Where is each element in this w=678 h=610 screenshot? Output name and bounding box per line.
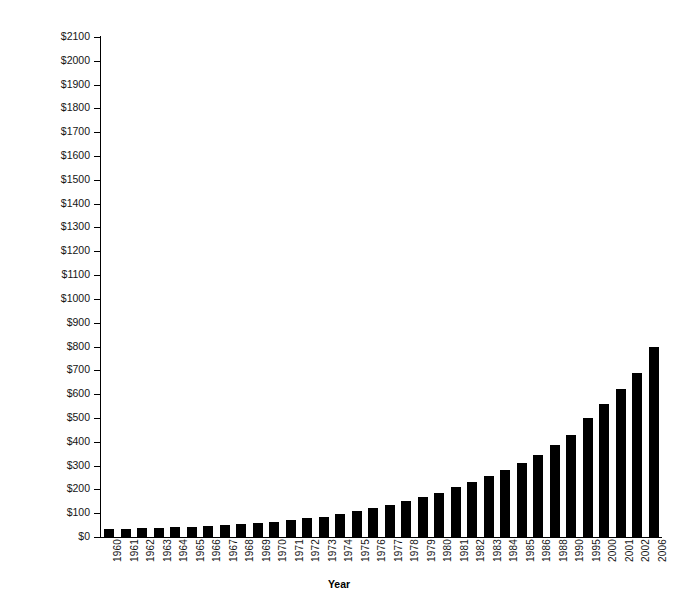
y-axis-tick-label: $700 [0, 364, 90, 375]
y-axis-tick [94, 227, 101, 228]
bar [484, 476, 494, 537]
bar [170, 527, 180, 537]
bar [302, 518, 312, 537]
bar [533, 455, 543, 537]
y-axis-tick [94, 513, 101, 514]
bar [236, 524, 246, 537]
bar [649, 347, 659, 537]
x-axis-tick-label: 1986 [542, 539, 552, 562]
bar [517, 463, 527, 537]
bar [583, 418, 593, 537]
x-axis-tick-label: 1972 [311, 539, 321, 562]
x-axis-tick-label: 1963 [163, 539, 173, 562]
x-axis-tick-label: 1979 [427, 539, 437, 562]
x-axis-tick-label: 2006 [658, 539, 668, 562]
bar [121, 529, 131, 537]
y-axis-tick-label: $1500 [0, 174, 90, 185]
y-axis-tick-label: $0 [0, 531, 90, 542]
y-axis-tick-label: $800 [0, 341, 90, 352]
x-axis-tick-label: 1981 [460, 539, 470, 562]
y-axis-tick-label: $100 [0, 507, 90, 518]
bar [434, 493, 444, 537]
y-axis-tick-label: $500 [0, 412, 90, 423]
bar [352, 511, 362, 537]
x-axis-tick-label: 1990 [575, 539, 585, 562]
y-axis-tick-label: $900 [0, 317, 90, 328]
bar [467, 482, 477, 537]
x-axis-tick-label: 2000 [608, 539, 618, 562]
bar [286, 520, 296, 537]
y-axis-tick [94, 132, 101, 133]
bar [599, 404, 609, 537]
y-axis-tick [94, 537, 101, 538]
bar [418, 497, 428, 537]
y-axis-tick-label: $1300 [0, 221, 90, 232]
bar [368, 508, 378, 537]
x-axis-labels: 1960196119621963196419651966196719681969… [101, 539, 662, 579]
bar [500, 470, 510, 537]
y-axis-tick [94, 275, 101, 276]
bar [385, 505, 395, 537]
x-axis-tick-label: 1967 [229, 539, 239, 562]
bar [550, 445, 560, 537]
x-axis-tick-label: 1985 [526, 539, 536, 562]
bar [616, 389, 626, 537]
y-axis-tick [94, 299, 101, 300]
y-axis-tick [94, 394, 101, 395]
bar [319, 517, 329, 537]
y-axis-tick-label: $1200 [0, 245, 90, 256]
y-axis-tick-label: $1600 [0, 150, 90, 161]
bar [632, 373, 642, 537]
y-axis-tick [94, 323, 101, 324]
y-axis-tick [94, 418, 101, 419]
y-axis-tick-label: $2000 [0, 55, 90, 66]
bar [187, 527, 197, 537]
y-axis-tick [94, 85, 101, 86]
x-axis-tick-label: 1973 [328, 539, 338, 562]
x-axis-tick-label: 1983 [493, 539, 503, 562]
bar [220, 525, 230, 537]
bar-chart: $2100$2000$1900$1800$1700$1600$1500$1400… [0, 0, 678, 610]
y-axis-tick-label: $200 [0, 483, 90, 494]
x-axis-tick-label: 2001 [625, 539, 635, 562]
y-axis-tick [94, 108, 101, 109]
y-axis-tick [94, 466, 101, 467]
y-axis-tick-label: $1400 [0, 198, 90, 209]
y-axis-tick [94, 489, 101, 490]
y-axis-tick [94, 61, 101, 62]
x-axis-tick-label: 1975 [361, 539, 371, 562]
bar [203, 526, 213, 537]
x-axis-tick-label: 1974 [344, 539, 354, 562]
y-axis-tick [94, 204, 101, 205]
x-axis-tick-label: 1995 [592, 539, 602, 562]
x-axis-tick-label: 1977 [394, 539, 404, 562]
x-axis-tick-label: 1984 [509, 539, 519, 562]
x-axis-tick-label: 1978 [410, 539, 420, 562]
bar-series [101, 0, 662, 537]
x-axis-tick-label: 1988 [559, 539, 569, 562]
x-axis-line [100, 537, 662, 538]
y-axis-tick [94, 180, 101, 181]
y-axis-tick-label: $1100 [0, 269, 90, 280]
y-axis-tick-label: $2100 [0, 31, 90, 42]
bar [104, 529, 114, 537]
bar [566, 435, 576, 537]
x-axis-tick-label: 1969 [262, 539, 272, 562]
y-axis-tick [94, 251, 101, 252]
bar [401, 501, 411, 537]
bar [137, 528, 147, 537]
x-axis-tick-label: 1964 [179, 539, 189, 562]
bar [253, 523, 263, 537]
x-axis-tick-label: 1976 [377, 539, 387, 562]
bar [335, 514, 345, 537]
bar [451, 487, 461, 537]
y-axis-tick [94, 370, 101, 371]
x-axis-tick-label: 1971 [295, 539, 305, 562]
x-axis-tick-label: 1961 [130, 539, 140, 562]
y-axis-tick-label: $1900 [0, 79, 90, 90]
y-axis-tick-label: $400 [0, 436, 90, 447]
bar [269, 522, 279, 537]
y-axis-tick-label: $300 [0, 460, 90, 471]
y-axis-tick-label: $1000 [0, 293, 90, 304]
x-axis-tick-label: 1982 [476, 539, 486, 562]
